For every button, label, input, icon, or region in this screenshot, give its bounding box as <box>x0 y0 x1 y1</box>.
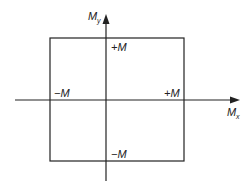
y-axis-title: M y <box>88 10 101 25</box>
x-axis-arrow-icon <box>230 97 240 104</box>
label-top: +M <box>111 41 127 53</box>
x-axis-subscript: x <box>235 113 240 120</box>
y-axis-arrow-icon <box>103 14 110 24</box>
label-bottom: −M <box>111 148 127 160</box>
label-right: +M <box>164 87 180 99</box>
label-left: −M <box>54 87 70 99</box>
x-axis-title: M x <box>227 106 240 120</box>
y-axis-subscript: y <box>96 17 101 25</box>
moment-interaction-diagram: M y M x +M −M −M +M <box>0 0 252 187</box>
